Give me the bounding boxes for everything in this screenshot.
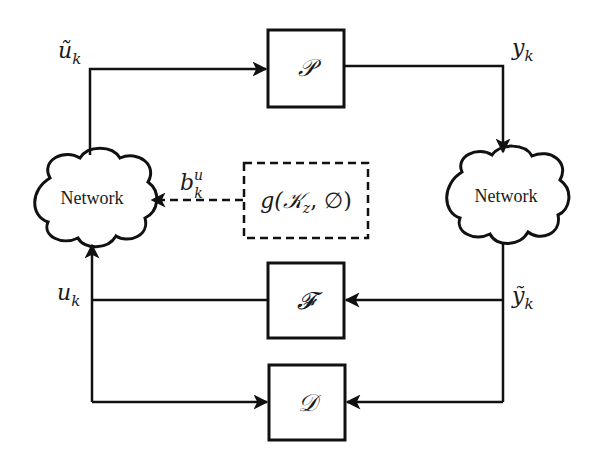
network-cloud-right: Network: [447, 146, 569, 243]
plant-label: 𝒫: [298, 54, 322, 82]
network-left-label: Network: [61, 188, 124, 208]
label-b: buk: [180, 167, 203, 201]
label-u-tilde: ũk: [58, 38, 81, 68]
label-u: uk: [57, 280, 80, 310]
detector-label: 𝒟: [298, 389, 322, 417]
label-y: yk: [511, 35, 534, 65]
plant-block: 𝒫: [268, 30, 344, 107]
connectors: [90, 66, 503, 402]
arrow-plant-to-network: [344, 66, 503, 152]
detector-block: 𝒟: [269, 365, 345, 440]
label-y-tilde: ỹk: [511, 283, 534, 313]
attack-block: g(𝒦z, ∅): [244, 163, 368, 238]
filter-block: 𝓕: [268, 263, 344, 338]
network-cloud-left: Network: [35, 148, 157, 247]
block-diagram: 𝒫 𝓕 𝒟 g(𝒦z, ∅) Network Network: [0, 0, 592, 465]
attack-label: g(𝒦z, ∅): [260, 188, 352, 216]
network-right-label: Network: [475, 186, 538, 206]
filter-label: 𝓕: [297, 287, 323, 315]
arrow-u-tilde-to-plant: [90, 69, 266, 155]
